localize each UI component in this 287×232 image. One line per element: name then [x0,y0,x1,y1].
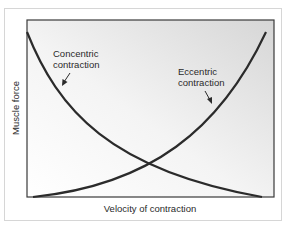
eccentric-label-line2: contraction [178,77,224,88]
chart: Concentric contraction Eccentric contrac… [0,0,287,232]
concentric-label-line2: contraction [53,59,99,70]
y-axis-label: Muscle force [10,81,21,135]
concentric-label-line1: Concentric [53,48,99,59]
x-axis-label: Velocity of contraction [104,203,196,214]
plot-area [27,20,274,197]
eccentric-label-line1: Eccentric [178,66,217,77]
